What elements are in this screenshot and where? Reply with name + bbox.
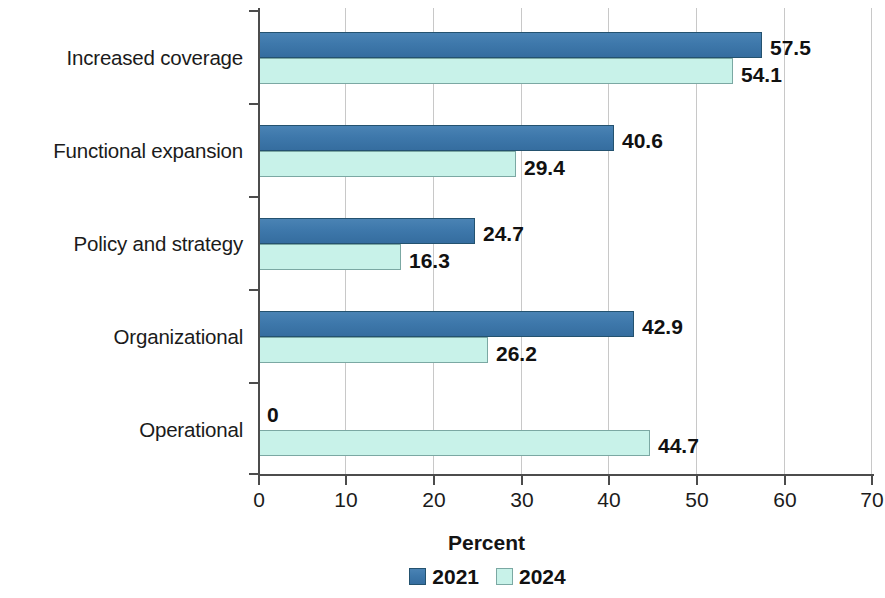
x-axis-tick-20 <box>433 474 435 485</box>
y-axis-tick-1 <box>249 103 259 105</box>
bar-2021-functional-expansion <box>258 125 614 151</box>
legend-item-2021[interactable]: 2021 <box>409 566 479 587</box>
x-axis-tick-0 <box>258 474 260 485</box>
bar-2021-organizational <box>258 311 634 337</box>
category-label-4: Operational <box>139 420 243 441</box>
x-axis-tick-30 <box>521 474 523 485</box>
x-axis-tick-label-4: 40 <box>597 489 620 510</box>
legend-label-2024: 2024 <box>519 566 566 587</box>
value-label-2021-functional-expansion: 40.6 <box>622 130 663 151</box>
x-axis-tick-label-3: 30 <box>510 489 533 510</box>
bar-2021-increased-coverage <box>258 32 762 58</box>
category-label-2: Policy and strategy <box>74 234 243 255</box>
x-axis-tick-label-0: 0 <box>253 489 265 510</box>
x-axis-tick-10 <box>345 474 347 485</box>
y-axis-tick-2 <box>249 196 259 198</box>
x-axis-tick-label-1: 10 <box>334 489 357 510</box>
bar-2024-organizational <box>258 337 488 363</box>
x-axis-tick-label-2: 20 <box>422 489 445 510</box>
x-axis-tick-40 <box>608 474 610 485</box>
gridline-60 <box>784 8 785 475</box>
value-label-2024-increased-coverage: 54.1 <box>741 64 782 85</box>
value-label-2024-policy-and-strategy: 16.3 <box>409 250 450 271</box>
value-label-2021-organizational: 42.9 <box>642 316 683 337</box>
value-label-2021-operational: 0 <box>267 404 279 425</box>
y-axis-tick-3 <box>249 289 259 291</box>
y-axis-tick-4 <box>249 382 259 384</box>
y-axis-tick-0 <box>249 10 259 12</box>
bar-2021-policy-and-strategy <box>258 218 475 244</box>
x-axis-line <box>258 474 874 476</box>
x-axis-tick-60 <box>784 474 786 485</box>
gridline-70 <box>871 8 872 475</box>
legend-swatch-icon-2021 <box>409 568 426 585</box>
legend-label-2021: 2021 <box>432 566 479 587</box>
value-label-2024-operational: 44.7 <box>658 435 699 456</box>
value-label-2021-policy-and-strategy: 24.7 <box>483 223 524 244</box>
x-axis-title: Percent <box>0 532 885 553</box>
legend-item-2024[interactable]: 2024 <box>496 566 566 587</box>
value-label-2021-increased-coverage: 57.5 <box>770 37 811 58</box>
x-axis-tick-label-6: 60 <box>773 489 796 510</box>
category-label-3: Organizational <box>114 327 243 348</box>
category-label-1: Functional expansion <box>53 141 243 162</box>
bar-2024-operational <box>258 430 650 456</box>
x-axis-tick-label-7: 70 <box>860 489 883 510</box>
bar-2024-policy-and-strategy <box>258 244 401 270</box>
chart-legend: 2021 2024 <box>0 566 885 587</box>
bar-chart: Increased coverage Functional expansion … <box>0 0 885 598</box>
value-label-2024-functional-expansion: 29.4 <box>524 157 565 178</box>
bar-2024-functional-expansion <box>258 151 516 177</box>
x-axis-tick-70 <box>871 474 873 485</box>
category-label-0: Increased coverage <box>67 48 243 69</box>
plot-area: 57.5 54.1 40.6 29.4 24.7 16.3 42.9 26.2 … <box>258 8 872 475</box>
value-label-2024-organizational: 26.2 <box>496 343 537 364</box>
x-axis-tick-50 <box>696 474 698 485</box>
bar-2024-increased-coverage <box>258 58 733 84</box>
y-axis-line <box>258 8 260 475</box>
x-axis-tick-label-5: 50 <box>685 489 708 510</box>
legend-swatch-icon-2024 <box>496 568 513 585</box>
